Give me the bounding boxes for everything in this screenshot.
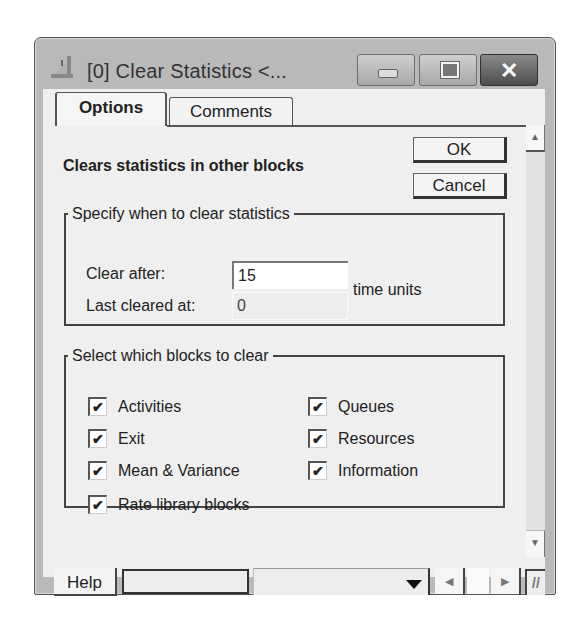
clear-statistics-dialog: [0] Clear Statistics <... ✕ Options Comm… <box>34 37 556 595</box>
window-title: [0] Clear Statistics <... <box>87 60 287 83</box>
dialog-body: Options Comments Clears statistics in ot… <box>43 89 545 577</box>
tab-comments[interactable]: Comments <box>169 97 293 125</box>
checkbox-resources[interactable]: ✔ Resources <box>308 429 414 448</box>
horizontal-scroll-thumb[interactable] <box>467 568 489 594</box>
minimize-icon <box>378 69 398 78</box>
time-units-label: time units <box>353 281 421 299</box>
checkbox-label: Rate library blocks <box>118 496 250 514</box>
checkbox-activities[interactable]: ✔ Activities <box>88 397 181 416</box>
scroll-up-icon[interactable]: ▲ <box>526 125 545 152</box>
clear-timing-legend: Specify when to clear statistics <box>68 205 294 223</box>
checkbox-rate-library-blocks[interactable]: ✔ Rate library blocks <box>88 495 250 514</box>
checkbox-label: Information <box>338 462 418 480</box>
checkmark-icon[interactable]: ✔ <box>88 397 107 416</box>
checkbox-information[interactable]: ✔ Information <box>308 461 418 480</box>
block-description: Clears statistics in other blocks <box>63 157 304 175</box>
vertical-scrollbar[interactable]: ▲ ▼ <box>526 125 545 557</box>
close-button[interactable]: ✕ <box>480 54 538 86</box>
checkbox-label: Exit <box>118 430 145 448</box>
ok-button[interactable]: OK <box>413 137 507 163</box>
blocks-to-clear-legend: Select which blocks to clear <box>68 347 273 365</box>
help-button[interactable]: Help <box>54 568 117 596</box>
checkmark-icon[interactable]: ✔ <box>88 461 107 480</box>
resize-grip-icon[interactable]: // <box>525 569 545 595</box>
tab-options[interactable]: Options <box>55 92 167 126</box>
title-bar[interactable]: [0] Clear Statistics <... ✕ <box>35 38 555 82</box>
checkbox-label: Queues <box>338 398 394 416</box>
maximize-icon <box>441 62 459 78</box>
status-bar: Help ◀ ▶ // <box>43 577 545 601</box>
checkbox-exit[interactable]: ✔ Exit <box>88 429 145 448</box>
checkmark-icon[interactable]: ✔ <box>88 495 107 514</box>
dropdown-arrow-icon[interactable] <box>406 580 422 589</box>
close-icon: ✕ <box>481 58 537 84</box>
cancel-button[interactable]: Cancel <box>413 173 507 199</box>
last-cleared-label: Last cleared at: <box>86 297 195 315</box>
clear-after-input[interactable] <box>232 261 348 289</box>
scroll-left-icon[interactable]: ◀ <box>435 568 465 594</box>
checkmark-icon[interactable]: ✔ <box>88 429 107 448</box>
status-field <box>122 569 249 594</box>
scroll-right-icon[interactable]: ▶ <box>491 568 521 594</box>
scroll-down-icon[interactable]: ▼ <box>526 530 545 557</box>
checkbox-label: Mean & Variance <box>118 462 240 480</box>
checkmark-icon[interactable]: ✔ <box>308 429 327 448</box>
app-icon <box>51 56 73 78</box>
checkbox-queues[interactable]: ✔ Queues <box>308 397 394 416</box>
checkbox-mean-variance[interactable]: ✔ Mean & Variance <box>88 461 240 480</box>
minimize-button[interactable] <box>357 54 415 86</box>
status-dropdown[interactable] <box>253 568 430 595</box>
last-cleared-value: 0 <box>232 292 348 320</box>
checkbox-label: Activities <box>118 398 181 416</box>
maximize-button[interactable] <box>419 54 477 86</box>
clear-after-label: Clear after: <box>86 265 165 283</box>
checkmark-icon[interactable]: ✔ <box>308 397 327 416</box>
tab-divider <box>167 125 534 127</box>
checkbox-label: Resources <box>338 430 414 448</box>
clear-timing-group: Specify when to clear statistics Clear a… <box>64 205 505 326</box>
blocks-to-clear-group: Select which blocks to clear ✔ Activitie… <box>64 347 505 508</box>
checkmark-icon[interactable]: ✔ <box>308 461 327 480</box>
